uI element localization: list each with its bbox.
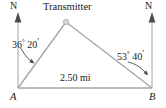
vertex-label-b: B — [149, 92, 155, 103]
angle-a-degrees: 36 — [12, 39, 22, 50]
baseline-distance-label: 2.50 mi — [60, 73, 91, 83]
transmitter-label: Transmitter — [43, 2, 92, 13]
angle-b-minute-symbol: ′ — [142, 48, 144, 58]
vertex-label-a: A — [10, 92, 16, 103]
north-label-right: N — [145, 1, 152, 11]
north-arrowhead-b — [149, 12, 156, 23]
angle-a-label: 36° 20′ — [12, 37, 39, 50]
north-label-left: N — [10, 1, 17, 11]
transmitter-point-marker — [63, 19, 68, 24]
north-arrowhead-a — [15, 12, 22, 23]
angle-b-label: 53° 40′ — [117, 49, 144, 62]
angle-a-minutes: 20 — [27, 39, 37, 50]
angle-b-degrees: 53 — [117, 51, 127, 62]
angle-a-degree-symbol: ° — [22, 38, 25, 46]
angle-a-minute-symbol: ′ — [37, 36, 39, 46]
angle-b-degree-symbol: ° — [127, 50, 130, 58]
bearing-triangle-figure: N N Transmitter 36° 20′ 53° 40′ 2.50 mi … — [0, 0, 166, 108]
angle-b-minutes: 40 — [132, 51, 142, 62]
